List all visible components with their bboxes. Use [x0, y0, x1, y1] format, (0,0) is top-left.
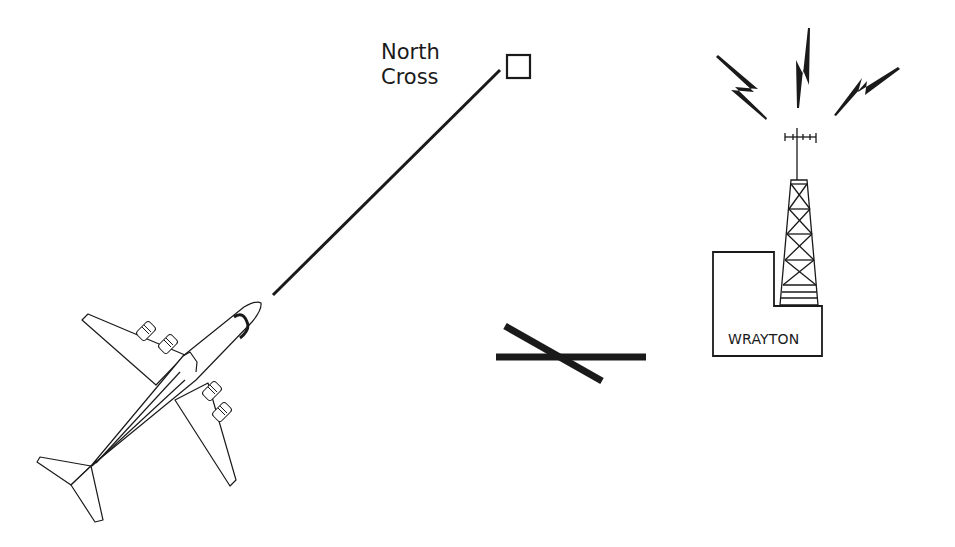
north-cross-label: North Cross	[381, 40, 440, 90]
radio-mast-icon	[780, 180, 818, 305]
wrayton-label: WRAYTON	[728, 331, 800, 347]
north-cross-waypoint-icon	[507, 55, 530, 78]
aircraft-icon	[37, 302, 261, 522]
track-line	[273, 70, 500, 295]
radio-signal-icon	[716, 28, 900, 120]
north-cross-label-line2: Cross	[381, 65, 440, 90]
antenna-icon	[785, 128, 816, 180]
diagram-canvas	[0, 0, 955, 547]
north-cross-label-line1: North	[381, 40, 440, 65]
runway-symbol-icon	[496, 326, 646, 381]
